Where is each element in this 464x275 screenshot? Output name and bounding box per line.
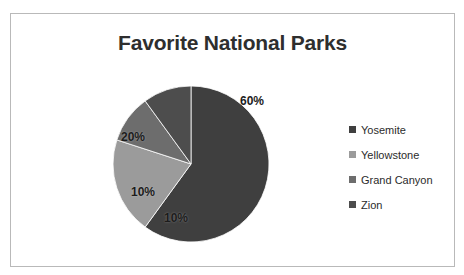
legend-item-label: Grand Canyon (361, 174, 433, 186)
pie-slice-label: 20% (121, 130, 145, 144)
chart-title: Favorite National Parks (11, 31, 454, 55)
pie-slice-label: 60% (240, 94, 264, 108)
legend-item-label: Zion (361, 199, 382, 211)
chart-frame: Favorite National Parks 60%20%10%10% Yos… (10, 13, 455, 267)
pie-slice-label: 10% (131, 185, 155, 199)
legend-item-label: Yosemite (361, 124, 406, 136)
legend-item[interactable]: Zion (349, 192, 453, 217)
pie-slice-label: 10% (164, 211, 188, 225)
legend-item-label: Yellowstone (361, 149, 419, 161)
legend-swatch-icon (349, 201, 356, 208)
legend-item[interactable]: Yosemite (349, 117, 453, 142)
plot-area: 60%20%10%10% (103, 76, 279, 252)
legend-item[interactable]: Grand Canyon (349, 167, 453, 192)
legend-item[interactable]: Yellowstone (349, 142, 453, 167)
legend-swatch-icon (349, 176, 356, 183)
scan-top-edge (0, 0, 464, 7)
legend-swatch-icon (349, 126, 356, 133)
legend-swatch-icon (349, 151, 356, 158)
chart-legend: YosemiteYellowstoneGrand CanyonZion (349, 117, 453, 217)
